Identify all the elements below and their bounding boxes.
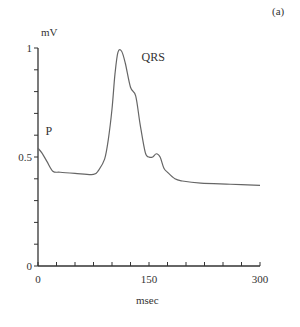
ecg-trace bbox=[38, 50, 260, 186]
annotation-p: P bbox=[45, 124, 52, 138]
x-tick-label: 300 bbox=[252, 273, 269, 285]
x-tick-label: 150 bbox=[141, 273, 158, 285]
annotation-qrs: QRS bbox=[142, 50, 165, 64]
x-axis-label: msec bbox=[136, 294, 159, 306]
y-tick-label: 1 bbox=[27, 42, 33, 54]
y-tick-label: 0.5 bbox=[18, 151, 32, 163]
annotations: PQRS bbox=[45, 50, 165, 138]
y-tick-label: 0 bbox=[27, 260, 33, 272]
tick-labels: 015030000.51 bbox=[18, 42, 269, 285]
ecg-chart: (a) mV msec 015030000.51 PQRS bbox=[0, 0, 300, 327]
x-tick-label: 0 bbox=[35, 273, 41, 285]
y-axis-label: mV bbox=[41, 26, 58, 38]
panel-label: (a) bbox=[272, 5, 285, 18]
